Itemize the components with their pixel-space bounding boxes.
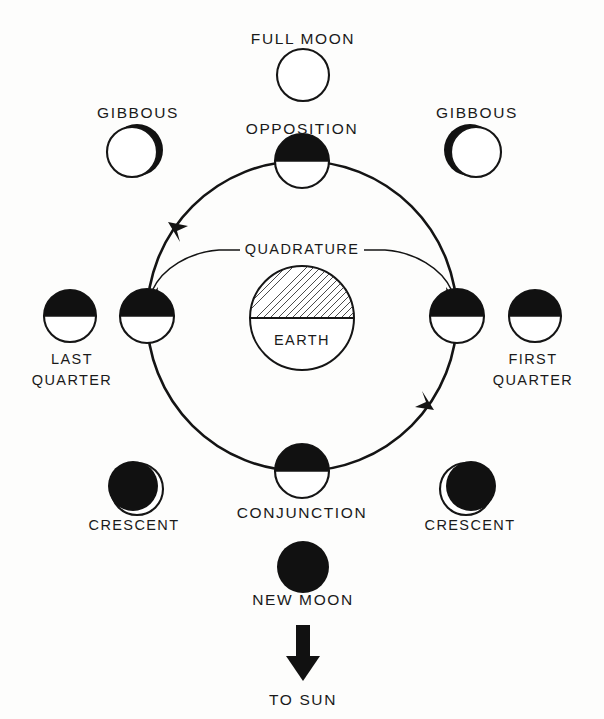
moon-crescent-left xyxy=(108,461,163,515)
new-moon-label: NEW MOON xyxy=(252,591,354,608)
moon-new xyxy=(277,541,329,593)
gibbous-left-label: GIBBOUS xyxy=(97,104,179,121)
diagram-canvas: EARTH QUADRATURE OPPOSITION xyxy=(0,0,604,719)
moon-conjunction xyxy=(275,444,329,498)
crescent-right-label: CRESCENT xyxy=(425,517,516,533)
moon-first-quarter xyxy=(509,290,561,342)
moon-first-quarter-orbit xyxy=(430,289,484,343)
to-sun-label: TO SUN xyxy=(269,691,337,708)
quadrature-label: QUADRATURE xyxy=(245,241,359,257)
lunar-phase-diagram: EARTH QUADRATURE OPPOSITION xyxy=(0,0,604,719)
moon-last-quarter-orbit xyxy=(120,289,174,343)
opposition-label: OPPOSITION xyxy=(246,120,358,137)
earth-body: EARTH xyxy=(237,257,380,370)
last-quarter-label-line2: QUARTER xyxy=(32,372,112,388)
gibbous-right-label: GIBBOUS xyxy=(436,104,518,121)
moon-opposition xyxy=(275,134,329,188)
conjunction-label: CONJUNCTION xyxy=(237,504,367,521)
moon-gibbous-left xyxy=(107,124,163,177)
earth-label: EARTH xyxy=(274,332,330,348)
first-quarter-label-line1: FIRST xyxy=(509,351,558,367)
last-quarter-label-line1: LAST xyxy=(51,351,93,367)
full-moon-label: FULL MOON xyxy=(251,30,355,47)
moon-full xyxy=(277,49,329,101)
to-sun-arrow xyxy=(286,625,320,681)
crescent-left-label: CRESCENT xyxy=(89,517,180,533)
first-quarter-label-line2: QUARTER xyxy=(493,372,573,388)
moon-last-quarter xyxy=(44,290,96,342)
moon-crescent-right xyxy=(440,461,496,515)
moon-gibbous-right xyxy=(444,124,501,177)
